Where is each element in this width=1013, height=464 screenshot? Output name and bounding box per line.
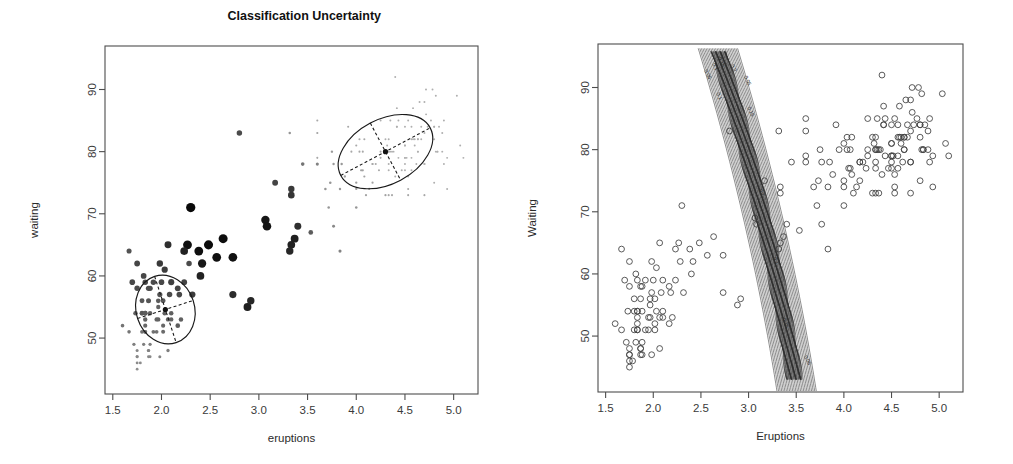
data-point [681,290,687,296]
plot-title: Classification Uncertainty [228,9,382,23]
data-point [358,151,360,153]
data-point [161,324,165,328]
data-point [371,163,373,165]
data-point [647,302,653,308]
data-point [288,192,295,199]
data-point [627,346,633,352]
data-point [397,120,399,122]
plot-frame [105,46,478,394]
data-point [443,120,445,122]
data-point [649,290,655,296]
left-plot-svg: Classification Uncertainty1.52.02.53.03.… [0,0,506,464]
data-point [930,184,936,190]
data-point [204,240,213,249]
data-point [161,330,165,334]
data-point [186,261,191,266]
data-point [720,252,726,258]
figure-root: Classification Uncertainty1.52.02.53.03.… [0,0,1013,464]
data-point [355,206,358,209]
data-point [412,107,414,109]
data-point [865,116,871,122]
data-point [272,180,278,186]
data-point [919,91,925,97]
data-point [619,246,625,252]
data-point [180,247,188,255]
data-point [917,134,923,140]
data-point [881,122,887,128]
data-point [388,163,390,165]
data-point [619,327,625,333]
ellipse-center-marker [383,149,388,154]
data-point [157,260,163,266]
data-point [803,116,809,122]
data-point [901,147,907,153]
data-point [134,261,140,267]
data-point [308,230,313,235]
data-point [676,240,682,246]
data-point [889,141,895,147]
data-point [814,203,820,209]
data-point [121,324,125,328]
data-point [438,126,440,128]
data-point [738,296,744,302]
data-point [654,308,660,314]
data-point [811,184,817,190]
data-point [873,159,879,165]
data-point [411,157,413,159]
data-point [879,172,885,178]
x-tick-label: 2.5 [693,402,709,414]
data-point [433,138,435,140]
data-point [789,159,795,165]
y-tick-label: 90 [579,81,591,94]
data-point [803,153,809,159]
data-point [879,72,885,78]
data-point [897,103,903,109]
data-point [639,339,645,345]
data-point [411,169,413,171]
data-point [687,246,693,252]
data-point [688,271,694,277]
data-point [331,150,333,152]
data-point [362,151,364,153]
data-point [169,311,174,316]
data-point [396,126,398,128]
y-tick-label: 60 [579,268,591,281]
data-point [660,277,666,283]
data-point [668,290,674,296]
data-point [358,138,360,140]
data-point [892,116,898,122]
data-point [827,159,833,165]
data-point [415,163,417,165]
data-point [925,128,931,134]
data-point [777,184,783,190]
data-point [338,250,341,253]
data-point [140,298,145,303]
data-point [149,355,152,358]
y-tick-label: 90 [86,83,98,96]
right-plot-svg: 1.52.02.53.03.54.04.55.05060708090Erupti… [506,0,1013,464]
y-tick-label: 70 [579,205,591,218]
data-point [385,138,387,140]
y-tick-label: 60 [86,270,98,283]
data-point [162,267,168,273]
data-point [459,144,461,146]
data-point [380,151,382,153]
data-point [263,222,272,231]
data-point [612,321,618,327]
data-point [143,317,147,321]
data-point [419,101,421,103]
data-point [332,163,334,165]
data-point [889,159,895,165]
x-tick-label: 3.5 [300,404,316,416]
data-point [841,184,847,190]
x-tick-label: 3.0 [251,404,267,416]
data-point [711,234,717,240]
data-point [638,346,644,352]
data-point [943,141,949,147]
x-tick-label: 4.5 [397,404,413,416]
data-point [854,184,860,190]
data-point [446,157,448,159]
data-point [914,116,920,122]
data-point [166,349,169,352]
data-point [900,159,906,165]
